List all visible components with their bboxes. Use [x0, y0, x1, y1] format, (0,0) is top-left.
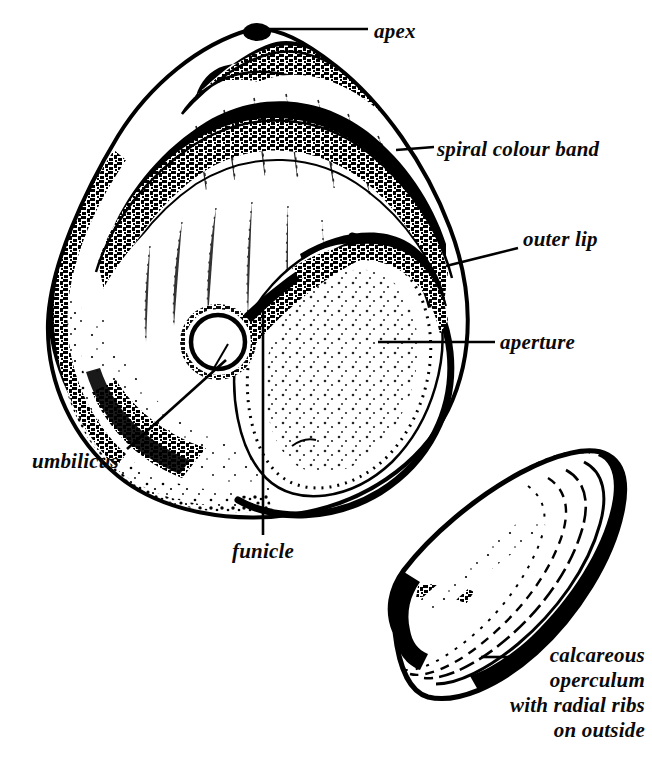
- label-funicle: funicle: [232, 539, 294, 564]
- label-operculum-line-2: operculum: [455, 668, 645, 693]
- label-operculum-line-4: on outside: [455, 718, 645, 743]
- label-operculum-line-3: with radial ribs: [455, 693, 645, 718]
- label-outer-lip: outer lip: [523, 227, 598, 252]
- label-aperture: aperture: [500, 330, 575, 355]
- label-apex: apex: [374, 19, 416, 44]
- label-operculum-line-1: calcareous: [455, 643, 645, 668]
- label-spiral-colour-band: spiral colour band: [437, 137, 599, 162]
- label-operculum-block: calcareous operculum with radial ribs on…: [455, 643, 645, 743]
- label-umbilicus: umbilicus: [32, 449, 119, 474]
- apex-point: [243, 23, 271, 41]
- shell-diagram-figure: apex spiral colour band outer lip apertu…: [0, 0, 652, 759]
